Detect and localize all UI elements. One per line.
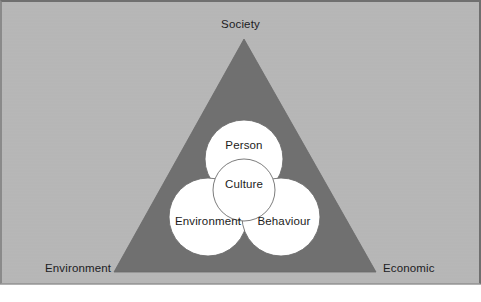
bottom-white-strip <box>0 284 481 302</box>
triangle-corner-label-economic: Economic <box>383 262 435 274</box>
circle-label-culture: Culture <box>199 178 289 190</box>
diagram-stage: Society Environment Economic Person Cult… <box>0 0 481 284</box>
triangle-apex-label-society: Society <box>0 18 481 30</box>
culture-circle <box>213 159 275 221</box>
triangle-corner-label-environment: Environment <box>45 262 111 274</box>
circle-label-person: Person <box>199 139 289 151</box>
diagram-canvas: Society Environment Economic Person Cult… <box>0 0 481 302</box>
circle-label-behaviour: Behaviour <box>238 215 330 227</box>
